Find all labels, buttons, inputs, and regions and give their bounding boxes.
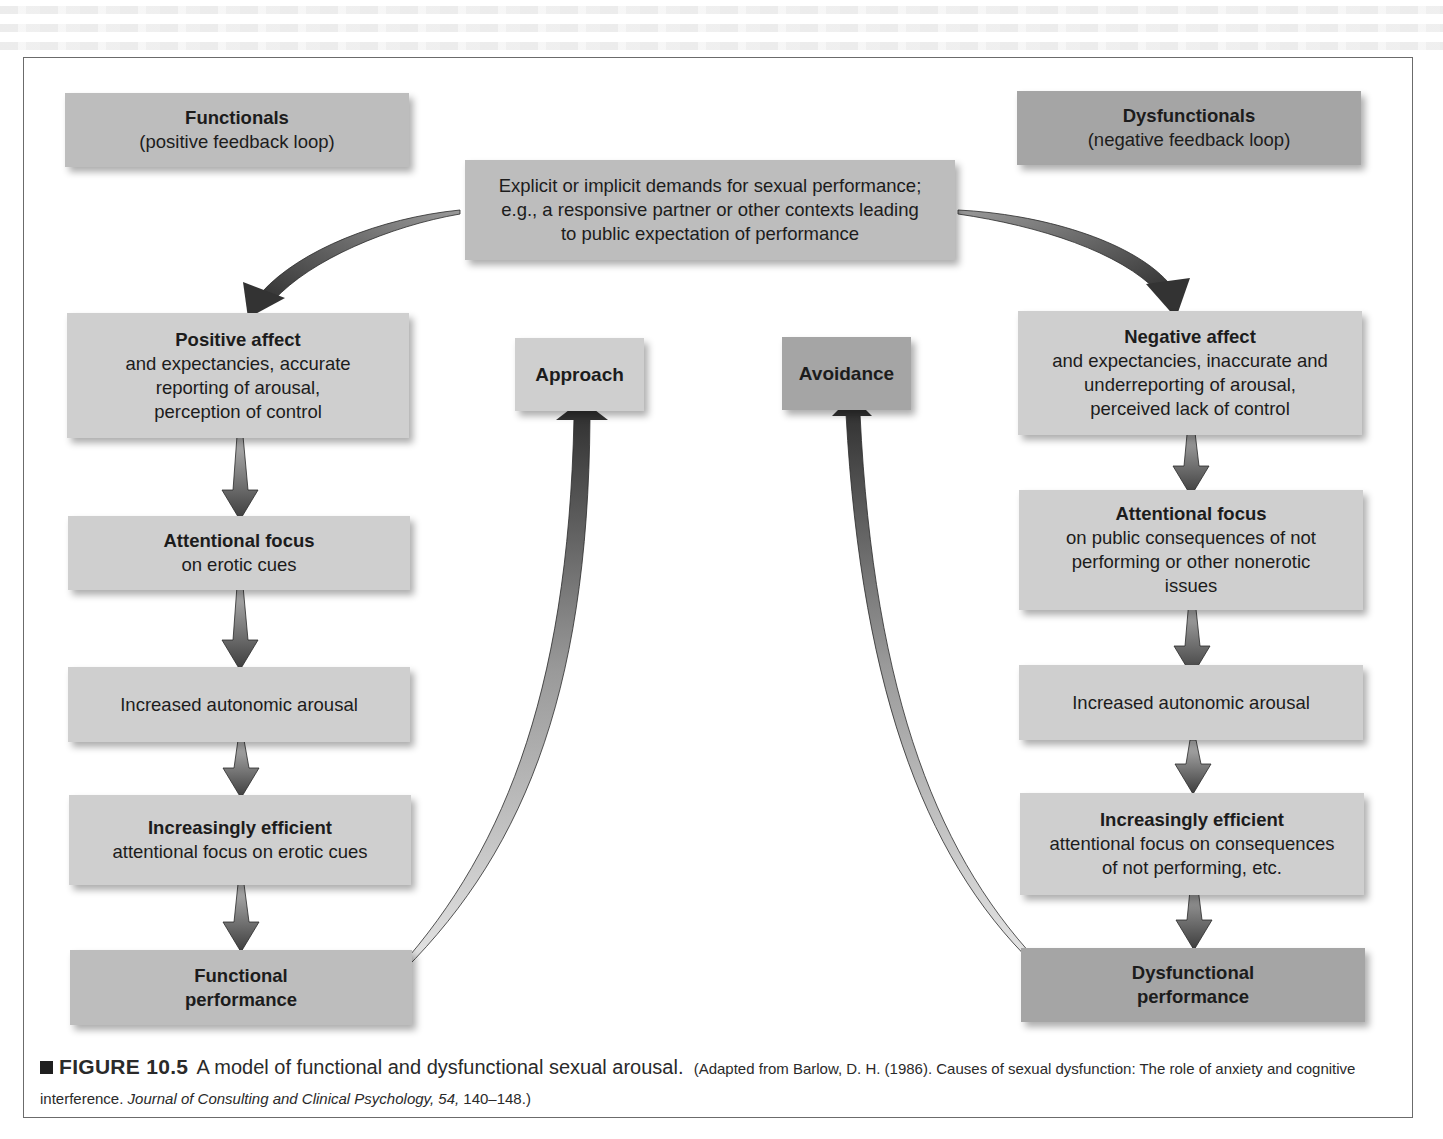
header-functionals: Functionals (positive feedback loop) [65,93,409,167]
box-line: Increased autonomic arousal [120,693,358,717]
negative-affect-box: Negative affect and expectancies, inaccu… [1018,311,1362,435]
box-line: issues [1165,574,1217,598]
box-line: attentional focus on erotic cues [112,840,367,864]
functional-performance-box: Functional performance [70,950,412,1025]
figure-description: A model of functional and dysfunctional … [197,1056,684,1078]
box-line: and expectancies, accurate [125,352,350,376]
attentional-focus-public-box: Attentional focus on public consequences… [1019,490,1363,610]
trigger-line: Explicit or implicit demands for sexual … [499,174,922,198]
dysfunctional-performance-box: Dysfunctional performance [1021,948,1365,1022]
box-line: performance [1137,985,1249,1009]
box-line: of not performing, etc. [1102,856,1282,880]
box-title: Functional [194,964,288,988]
figure-caption: FIGURE 10.5 A model of functional and dy… [40,1052,1410,1114]
box-title: Increasingly efficient [1100,808,1284,832]
figure-label: FIGURE 10.5 [59,1055,188,1078]
box-title: Attentional focus [163,529,314,553]
box-title: Dysfunctional [1132,961,1254,985]
box-title: Positive affect [175,328,300,352]
figure-pages: 140–148.) [463,1090,531,1107]
box-line: attentional focus on consequences [1050,832,1335,856]
box-line: performance [185,988,297,1012]
box-line: reporting of arousal, [156,376,321,400]
attentional-focus-erotic-box: Attentional focus on erotic cues [68,516,410,590]
box-title: Increasingly efficient [148,816,332,840]
page-bleed-text [0,6,1443,14]
box-line: and expectancies, inaccurate and [1052,349,1328,373]
autonomic-arousal-box-left: Increased autonomic arousal [68,667,410,742]
box-line: performing or other nonerotic [1072,550,1311,574]
page-bleed-text [0,42,1443,50]
header-title: Functionals [185,106,289,130]
trigger-line: to public expectation of performance [561,222,859,246]
page-bleed-text [0,24,1443,32]
approach-box: Approach [515,338,644,411]
positive-affect-box: Positive affect and expectancies, accura… [67,313,409,438]
box-line: underreporting of arousal, [1084,373,1296,397]
header-subtitle: (negative feedback loop) [1088,128,1291,152]
efficient-focus-consequences-box: Increasingly efficient attentional focus… [1020,793,1364,895]
box-title: Negative affect [1124,325,1256,349]
box-line: on public consequences of not [1066,526,1316,550]
header-dysfunctionals: Dysfunctionals (negative feedback loop) [1017,91,1361,165]
trigger-line: e.g., a responsive partner or other cont… [501,198,919,222]
efficient-focus-erotic-box: Increasingly efficient attentional focus… [69,795,411,885]
approach-label: Approach [535,363,624,387]
header-title: Dysfunctionals [1123,104,1256,128]
box-line: perceived lack of control [1090,397,1290,421]
autonomic-arousal-box-right: Increased autonomic arousal [1019,665,1363,740]
box-line: on erotic cues [181,553,296,577]
caption-square-icon [40,1061,53,1074]
figure-journal: Journal of Consulting and Clinical Psych… [128,1090,460,1107]
avoidance-box: Avoidance [782,337,911,410]
box-line: Increased autonomic arousal [1072,691,1310,715]
box-line: perception of control [154,400,322,424]
avoidance-label: Avoidance [799,362,894,386]
box-title: Attentional focus [1115,502,1266,526]
trigger-box: Explicit or implicit demands for sexual … [465,160,955,260]
header-subtitle: (positive feedback loop) [139,130,334,154]
